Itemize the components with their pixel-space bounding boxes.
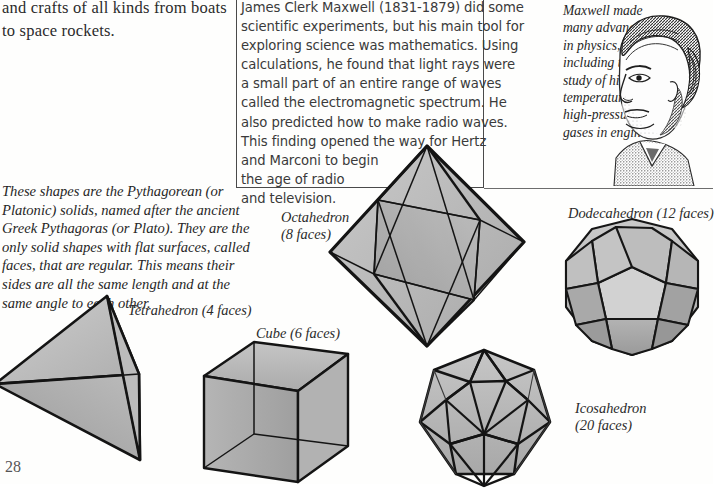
paragraph-line: to space rockets. (2, 19, 234, 42)
page-number: 28 (5, 458, 21, 476)
octahedron-label-line1: Octahedron (281, 209, 349, 226)
icosahedron-label: Icosahedron (20 faces) (575, 400, 646, 433)
paragraph-line: faces, that are regular. This means thei… (2, 256, 242, 275)
paragraph-line: Platonic) solids, named after the ancien… (2, 201, 242, 220)
icosahedron-figure (410, 348, 558, 488)
maxwell-portrait (596, 8, 708, 186)
octahedron-label: Octahedron (8 faces) (281, 209, 349, 242)
maxwell-line: calculations, he found that light rays w… (241, 55, 491, 74)
icosahedron-label-line2: (20 faces) (575, 417, 646, 434)
top-left-paragraph: and crafts of all kinds from boats to sp… (2, 0, 234, 42)
icosahedron-label-line1: Icosahedron (575, 400, 646, 417)
maxwell-line: James Clerk Maxwell (1831-1879) did some (241, 0, 491, 17)
octahedron-figure (322, 142, 532, 352)
tetrahedron-label: Tetrahedron (4 faces) (128, 302, 252, 319)
maxwell-line: scientific experiments, but his main too… (241, 17, 491, 36)
paragraph-line: These shapes are the Pythagorean (or (2, 182, 242, 201)
maxwell-line: exploring science was mathematics. Using (241, 36, 491, 55)
dodecahedron-label: Dodecahedron (12 faces) (568, 205, 714, 222)
maxwell-line: called the electromagnetic spectrum. He (241, 93, 491, 112)
paragraph-line: Greek Pythagoras (or Plato). They are th… (2, 219, 242, 238)
cube-figure (196, 336, 356, 486)
paragraph-line: only solid shapes with flat surfaces, ca… (2, 238, 242, 257)
maxwell-line: also predicted how to make radio waves. (241, 113, 491, 132)
cube-label: Cube (6 faces) (256, 325, 340, 342)
maxwell-line: a small part of an entire range of waves (241, 74, 491, 93)
dodecahedron-figure (556, 215, 708, 367)
paragraph-line: and crafts of all kinds from boats (2, 0, 234, 19)
octahedron-label-line2: (8 faces) (281, 226, 349, 243)
